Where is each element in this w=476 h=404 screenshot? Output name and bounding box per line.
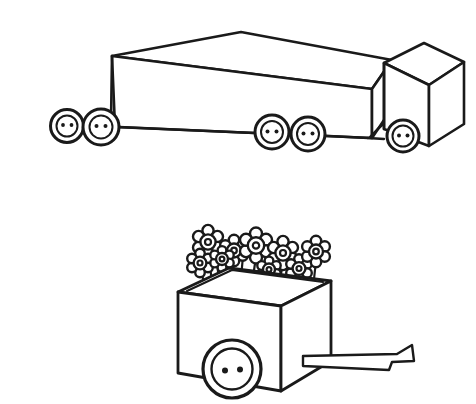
truck-wheel-4	[291, 117, 325, 151]
flower-icon-2	[187, 249, 213, 278]
trailer-cab-strut-lower	[368, 138, 384, 139]
line-art-canvas	[0, 0, 476, 404]
cart-wheel	[203, 340, 261, 398]
truck-wheel-1	[51, 110, 84, 143]
coloring-page: Truck and Flower Cart Coloring Page	[0, 0, 476, 404]
flower-icon-8	[302, 236, 330, 267]
truck-wheel-2	[83, 109, 119, 145]
truck-wheel-3	[255, 115, 289, 149]
truck-wheel-5	[387, 120, 419, 152]
